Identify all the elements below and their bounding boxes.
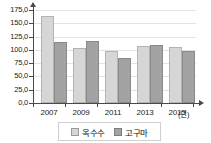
chart-legend: 옥수수 고구마	[58, 122, 161, 141]
y-axis-line	[33, 6, 34, 104]
legend-item-oksusu: 옥수수	[71, 126, 105, 138]
legend-swatch-icon	[71, 128, 79, 136]
y-axis-label: 100,0	[0, 46, 28, 54]
y-tick	[29, 23, 33, 24]
x-axis-line	[33, 103, 200, 104]
bar-chart: 175,0 150,0 125,0 100,0 75,0 50,0 25,0 0…	[0, 0, 211, 143]
y-axis-arrow-icon	[30, 2, 36, 7]
x-tick	[97, 103, 98, 107]
y-tick	[29, 50, 33, 51]
legend-label: 고구마	[125, 126, 148, 138]
y-tick	[29, 63, 33, 64]
x-axis-arrow-icon	[199, 100, 204, 106]
y-tick	[29, 90, 33, 91]
y-tick	[29, 10, 33, 11]
bar-2015-oksusu	[169, 47, 182, 103]
bar-2013-gogooma	[150, 45, 163, 103]
x-axis-label-2015: 2015	[157, 108, 197, 117]
gridline	[33, 23, 196, 24]
bar-2007-oksusu	[41, 16, 54, 103]
bar-2011-gogooma	[118, 58, 131, 103]
x-tick	[129, 103, 130, 107]
legend-label: 옥수수	[82, 126, 105, 138]
x-axis-unit-label: (년)	[178, 108, 189, 119]
plot-area	[33, 10, 196, 103]
y-axis-label: 25,0	[0, 86, 28, 94]
y-tick	[29, 37, 33, 38]
y-axis-label: 75,0	[0, 59, 28, 67]
y-axis-label: 50,0	[0, 72, 28, 80]
bar-2009-oksusu	[73, 48, 86, 103]
gridline	[33, 37, 196, 38]
bar-2013-oksusu	[137, 46, 150, 103]
y-axis-label: 125,0	[0, 33, 28, 41]
x-tick	[193, 103, 194, 107]
y-tick	[29, 76, 33, 77]
bar-2007-gogooma	[54, 42, 67, 103]
bar-2011-oksusu	[105, 51, 118, 103]
bar-2009-gogooma	[86, 41, 99, 103]
x-tick	[161, 103, 162, 107]
y-axis-label: 0,0	[0, 99, 28, 107]
bar-2015-gogooma	[182, 51, 195, 103]
y-axis-label: 150,0	[0, 19, 28, 27]
x-tick	[33, 103, 34, 107]
y-axis-label: 175,0	[0, 6, 28, 14]
gridline	[33, 10, 196, 11]
x-tick	[65, 103, 66, 107]
legend-item-gogooma: 고구마	[114, 126, 148, 138]
legend-swatch-icon	[114, 128, 122, 136]
